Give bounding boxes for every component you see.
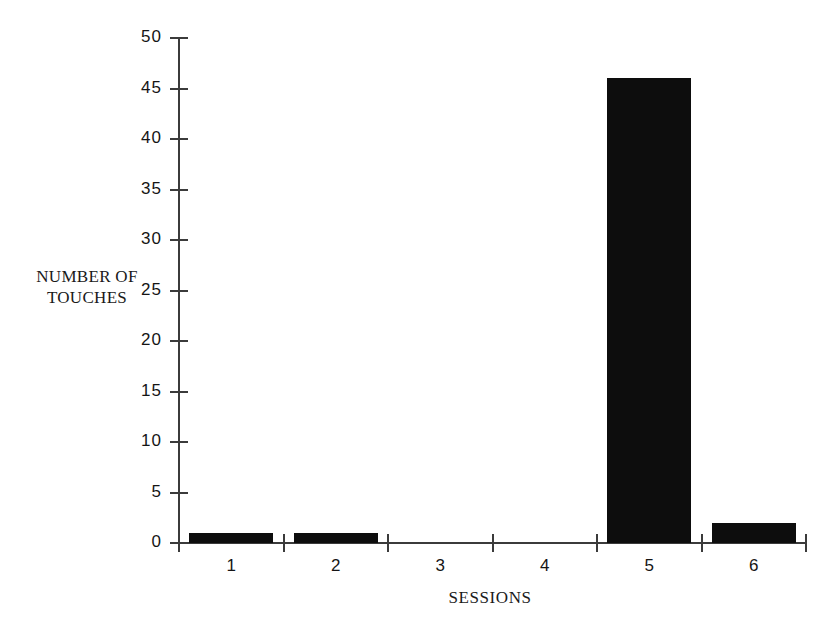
x-axis-tick: [805, 534, 807, 552]
y-axis-tick: [170, 239, 188, 241]
x-axis-tick-label: 4: [525, 556, 565, 576]
y-axis-tick-label: 15: [118, 381, 162, 401]
x-axis-tick-label: 1: [211, 556, 251, 576]
y-axis-tick: [170, 340, 188, 342]
y-axis-tick: [170, 441, 188, 443]
x-axis-tick: [178, 534, 180, 552]
y-axis-tick-label: 30: [118, 229, 162, 249]
y-axis-tick: [170, 189, 188, 191]
y-axis-tick: [170, 37, 188, 39]
y-axis-tick-label: 0: [118, 532, 162, 552]
y-axis-tick: [170, 391, 188, 393]
bar: [712, 523, 796, 543]
y-axis-tick: [170, 492, 188, 494]
y-axis-tick-label: 10: [118, 431, 162, 451]
bar: [607, 78, 691, 543]
y-axis-tick-label: 40: [118, 128, 162, 148]
y-axis-tick-label: 5: [118, 482, 162, 502]
y-axis-title: NUMBER OF TOUCHES: [24, 266, 150, 308]
bar: [189, 533, 273, 543]
x-axis-title: SESSIONS: [400, 588, 580, 608]
y-axis-tick-label: 20: [118, 330, 162, 350]
x-axis-tick: [387, 534, 389, 552]
y-axis-tick: [170, 138, 188, 140]
y-axis-tick-label: 45: [118, 78, 162, 98]
x-axis-tick: [701, 534, 703, 552]
bar-chart: 05101520253035404550 123456 NUMBER OF TO…: [0, 0, 836, 629]
x-axis-tick: [596, 534, 598, 552]
bar: [294, 533, 378, 543]
y-axis-tick: [170, 290, 188, 292]
y-axis-tick-label: 50: [118, 27, 162, 47]
x-axis-tick: [492, 534, 494, 552]
x-axis-tick-label: 2: [316, 556, 356, 576]
x-axis-tick-label: 3: [420, 556, 460, 576]
y-axis-tick-label: 35: [118, 179, 162, 199]
y-axis-tick: [170, 88, 188, 90]
x-axis-tick: [283, 534, 285, 552]
x-axis-tick-label: 5: [629, 556, 669, 576]
x-axis-tick-label: 6: [734, 556, 774, 576]
